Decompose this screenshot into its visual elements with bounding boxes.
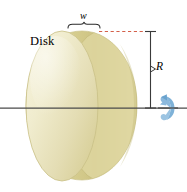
rotation-direction-arrow [158,94,178,120]
radius-label-pointer-icon [151,66,156,72]
width-label: w [80,11,87,21]
figure-canvas [0,0,187,192]
width-brace [68,22,100,28]
radius-label: R [156,61,163,73]
disk-rotation-figure: Disk w R [0,0,187,192]
disk-solid [26,31,137,181]
radius-dimension-line [145,32,156,109]
disk-label: Disk [30,35,54,48]
